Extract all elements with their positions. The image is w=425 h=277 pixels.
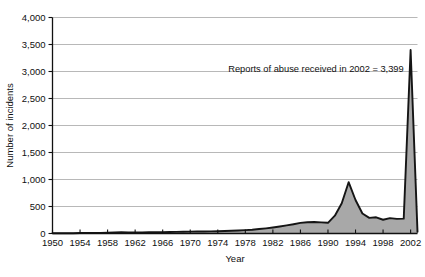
y-tick-label-2500: 2,500 [22,93,46,104]
chart-container: 05001,0001,5002,0002,5003,0003,5004,000 … [0,0,425,277]
x-axis-title: Year [225,253,244,264]
chart-annotations: Reports of abuse received in 2002 = 3,39… [228,64,403,74]
x-tick-label-1958: 1958 [97,237,118,248]
y-tick-label-1000: 1,000 [22,174,46,185]
annotation-0: Reports of abuse received in 2002 = 3,39… [228,64,403,74]
x-tick-label-1974: 1974 [207,237,228,248]
gridlines [53,18,418,207]
x-tick-label-1986: 1986 [290,237,311,248]
x-tick-label-1966: 1966 [152,237,173,248]
x-tick-label-1950: 1950 [42,237,63,248]
x-tick-label-1962: 1962 [125,237,146,248]
y-tick-label-2000: 2,000 [22,120,46,131]
y-tick-label-3000: 3,000 [22,66,46,77]
x-tick-label-1982: 1982 [262,237,283,248]
series-line [53,50,418,233]
x-tick-label-2002: 2002 [400,237,421,248]
x-tick-label-1990: 1990 [317,237,338,248]
y-tick-label-3500: 3,500 [22,39,46,50]
area-series [53,50,418,234]
y-tick-label-4000: 4,000 [22,12,46,23]
x-tick-label-1954: 1954 [69,237,90,248]
y-tick-label-500: 500 [30,201,46,212]
y-axis-title: Number of incidents [4,83,15,168]
y-tick-label-1500: 1,500 [22,147,46,158]
y-axis-tick-labels: 05001,0001,5002,0002,5003,0003,5004,000 [22,12,46,239]
x-tick-label-1998: 1998 [372,237,393,248]
area-fill [53,50,418,234]
x-tick-label-1970: 1970 [180,237,201,248]
x-axis-tick-labels: 1950195419581962196619701974197819821986… [42,237,421,248]
incidents-area-chart: 05001,0001,5002,0002,5003,0003,5004,000 … [0,0,425,277]
x-tick-label-1978: 1978 [235,237,256,248]
x-tick-label-1994: 1994 [345,237,366,248]
